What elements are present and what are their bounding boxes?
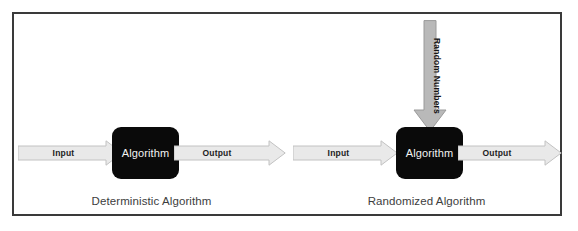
algorithm-box-deterministic: Algorithm [112, 127, 179, 179]
diagram-frame: Input Algorithm Output Deterministic Alg… [12, 12, 562, 216]
diagram-canvas: Input Algorithm Output Deterministic Alg… [0, 0, 578, 231]
algorithm-box-label: Algorithm [406, 147, 453, 159]
input-arrow-randomized: Input [293, 140, 398, 166]
caption-deterministic: Deterministic Algorithm [14, 195, 289, 207]
random-numbers-arrow-shape [413, 20, 447, 132]
input-arrow-deterministic: Input [18, 140, 123, 166]
input-arrow-shape [18, 140, 123, 166]
panel-randomized: Random Numbers Input Algorithm Output [289, 14, 564, 218]
input-arrow-shape [293, 140, 398, 166]
output-arrow-shape [458, 140, 562, 166]
caption-randomized: Randomized Algorithm [289, 195, 564, 207]
algorithm-box-randomized: Algorithm [396, 127, 463, 179]
random-numbers-arrow: Random Numbers [413, 20, 447, 132]
algorithm-box-label: Algorithm [122, 147, 169, 159]
panel-deterministic: Input Algorithm Output Deterministic Alg… [14, 14, 289, 218]
output-arrow-shape [174, 140, 286, 166]
output-arrow-randomized: Output [458, 140, 562, 166]
output-arrow-deterministic: Output [174, 140, 286, 166]
